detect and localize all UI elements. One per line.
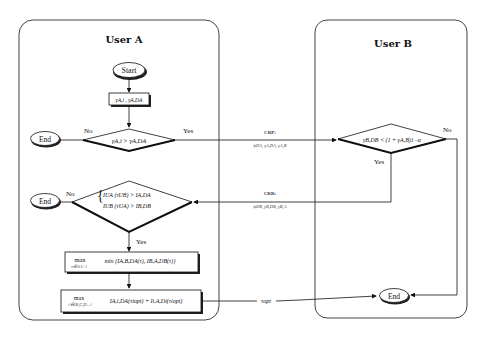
optimize-min-box: max τ∈ΛA+i min {IA,B,DA(τ), IB,A,DB(τ)} [65,252,200,274]
end-b-label: End [388,292,400,301]
end-node-1: End [31,132,62,148]
select-best-user-box: max i∈{B,C,D...} IA,i,DA(τiopt) + Ii,A,D… [61,290,203,314]
crr-params: ϕDB, γB,DB, γB,A [254,204,287,210]
decision-user-b: γB,DB < (1 + γA,B)1−α No Yes [338,124,452,166]
decision-b-yes-label: Yes [374,158,384,166]
end1-label: End [39,135,51,144]
decision2-no-label: No [66,190,75,198]
decision1-yes-label: Yes [183,127,193,135]
optimize-expr: min {IA,B,DA(τ), IB,A,DB(τ)} [104,258,176,265]
decision1-no-label: No [84,127,93,135]
decision2-line2: IUB (τUA) > IB,DB [102,203,151,210]
decision-b-no-label: No [443,126,452,134]
crp-params: ϕDA, γA,DA, γA,B [254,143,287,149]
optimize-max-sub: τ∈ΛA+i [71,264,87,269]
user-b-title: User B [374,38,412,49]
decision-b-label: γB,DB < (1 + γA,B)1−α [363,137,422,144]
select-max: max [74,295,84,301]
crr-label: CRR: [264,191,277,196]
compute-gamma-label: γA,i , γA,DA [116,97,143,103]
end-node-2: End [31,194,62,210]
end2-label: End [39,197,51,206]
decision1-label: γA,i > γA,DA [112,137,146,144]
user-a-title: User A [105,34,142,45]
start-label: Start [121,66,137,75]
decision2-yes-label: Yes [136,238,146,246]
optimize-max: max [74,256,86,263]
decision2-line1: IUA (τUB) > IA,DA [102,192,151,199]
crp-label: CRP: [264,130,276,135]
start-node: Start [113,63,147,81]
end-node-b: End [380,289,411,305]
topt-label: τopt [261,298,271,304]
flowchart-canvas: User A User B Start γA,i , γA,DA γA,i > … [0,0,483,345]
select-expr: IA,i,DA(τiopt) + Ii,A,Di(τiopt) [109,298,183,305]
decision-gamma-compare: γA,i > γA,DA No Yes [83,127,193,151]
compute-gamma-box: γA,i , γA,DA [109,93,151,107]
